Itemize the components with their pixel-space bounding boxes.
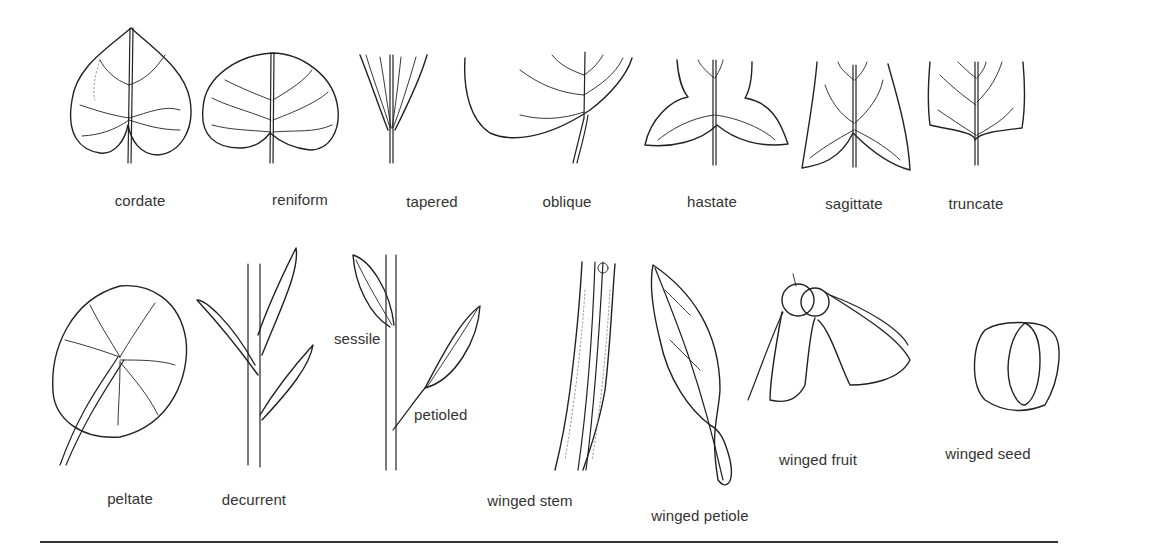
- label-cordate: cordate: [115, 192, 166, 209]
- cordate-leaf-drawing: [71, 28, 191, 163]
- label-tapered: tapered: [406, 193, 458, 210]
- leaf-illustrations: [0, 0, 1153, 559]
- label-winged-petiole: winged petiole: [651, 507, 748, 524]
- winged-petiole-drawing: [651, 265, 731, 485]
- sessile-petioled-drawing: [353, 255, 480, 470]
- label-winged-stem: winged stem: [487, 492, 572, 509]
- label-winged-fruit: winged fruit: [779, 451, 857, 468]
- winged-stem-drawing: [555, 262, 615, 470]
- label-truncate: truncate: [949, 195, 1004, 212]
- hastate-leaf-drawing: [645, 60, 788, 165]
- oblique-leaf-drawing: [465, 52, 632, 163]
- peltate-leaf-drawing: [53, 286, 187, 465]
- tapered-leaf-drawing: [360, 55, 427, 163]
- winged-seed-drawing: [974, 323, 1059, 411]
- winged-fruit-drawing: [748, 274, 910, 401]
- reniform-leaf-drawing: [203, 53, 339, 163]
- decurrent-leaf-drawing: [197, 248, 313, 467]
- label-sagittate: sagittate: [825, 195, 883, 212]
- label-peltate: peltate: [107, 490, 153, 507]
- label-hastate: hastate: [687, 193, 737, 210]
- label-petioled: petioled: [414, 406, 467, 423]
- label-oblique: oblique: [542, 193, 591, 210]
- label-reniform: reniform: [272, 191, 328, 208]
- label-decurrent: decurrent: [222, 491, 286, 508]
- bottom-rule-divider: [40, 541, 1058, 543]
- label-winged-seed: winged seed: [945, 445, 1030, 462]
- sagittate-leaf-drawing: [802, 62, 910, 170]
- truncate-leaf-drawing: [929, 62, 1025, 165]
- label-sessile: sessile: [334, 330, 381, 347]
